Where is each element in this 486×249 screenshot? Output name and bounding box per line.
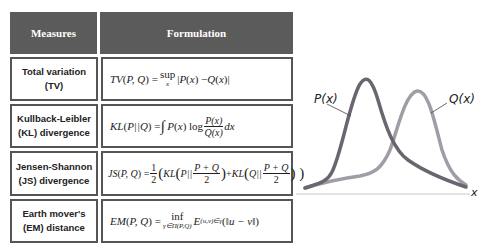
p-label: P(x) [314, 92, 338, 106]
formula-kl: KL(P||Q) = ∫ P(x) log P(x)Q(x) dx [101, 104, 293, 148]
formula-js: JS(P, Q) = 12 (KL(P|| P + Q2 ) + KL(Q|| … [101, 151, 293, 196]
distribution-diagram: P(x) Q(x) x [290, 40, 486, 210]
measure-jensen-shannon: Jensen-Shannon(JS) divergence [10, 151, 98, 196]
q-pointer [431, 103, 447, 113]
measure-name: Earth mover's [23, 208, 86, 219]
header-measures: Measures [10, 12, 97, 54]
measure-name: Jensen-Shannon [16, 161, 93, 172]
measure-name: Kullback-Leibler [17, 113, 91, 124]
formula-tv: TV(P, Q) = supx |P(x) − Q(x)| [101, 57, 293, 101]
measure-abbrev: (KL) divergence [18, 127, 90, 138]
measure-abbrev: (TV) [45, 80, 63, 91]
measure-abbrev: (JS) divergence [19, 175, 90, 186]
header-formulation: Formulation [100, 12, 293, 54]
measure-total-variation: Total variation(TV) [10, 57, 98, 101]
measure-kullback-leibler: Kullback-Leibler(KL) divergence [10, 104, 98, 148]
measure-name: Total variation [22, 66, 86, 77]
distribution-curves [290, 40, 486, 210]
measure-earth-movers: Earth mover's(EM) distance [10, 199, 98, 243]
x-axis-label: x [471, 186, 478, 199]
formula-em: EM(P, Q) = infγ∈Π(P,Q) E(u,v)∈γ (‖u − v‖… [101, 199, 293, 243]
measure-abbrev: (EM) distance [23, 222, 85, 233]
q-label: Q(x) [449, 92, 475, 106]
